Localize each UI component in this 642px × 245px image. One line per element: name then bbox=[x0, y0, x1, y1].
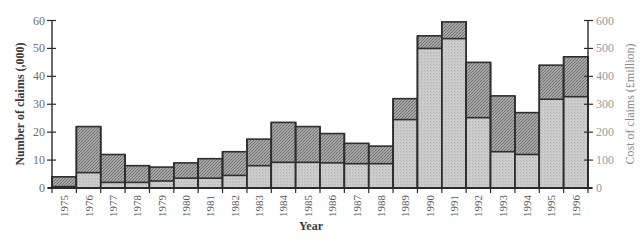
x-tick-label: 1987 bbox=[351, 195, 363, 218]
bar-group-1986 bbox=[320, 134, 344, 188]
cost-bar bbox=[272, 162, 295, 188]
bar-group-1979 bbox=[149, 167, 173, 188]
bar-group-1975 bbox=[52, 177, 76, 188]
bar-group-1987 bbox=[344, 143, 368, 188]
y-tick-label-right: 500 bbox=[596, 41, 614, 55]
cost-bar bbox=[540, 99, 563, 188]
bar-group-1982 bbox=[223, 152, 247, 188]
cost-bar bbox=[321, 163, 344, 188]
claims-chart: 1975197619771978197919801981198219831984… bbox=[0, 0, 642, 245]
bar-group-1991 bbox=[442, 22, 466, 188]
x-tick-label: 1977 bbox=[107, 195, 119, 218]
bar-group-1977 bbox=[101, 155, 125, 189]
bar-group-1989 bbox=[393, 99, 417, 188]
y-tick-label-right: 600 bbox=[596, 14, 614, 28]
cost-bar bbox=[491, 152, 514, 188]
bar-group-1981 bbox=[198, 159, 222, 188]
x-tick-label: 1982 bbox=[229, 195, 241, 217]
y-tick-label-left: 20 bbox=[33, 125, 45, 139]
x-tick-label: 1992 bbox=[472, 195, 484, 217]
x-tick-label: 1988 bbox=[375, 195, 387, 218]
cost-bar bbox=[296, 162, 319, 188]
x-tick-label: 1980 bbox=[180, 195, 192, 218]
y-tick-label-left: 0 bbox=[39, 181, 45, 195]
cost-bar bbox=[223, 175, 246, 188]
cost-bar bbox=[77, 173, 100, 188]
bar-group-1976 bbox=[76, 127, 100, 188]
y-tick-label-left: 30 bbox=[33, 97, 45, 111]
cost-bar bbox=[199, 178, 222, 188]
x-tick-label: 1976 bbox=[83, 195, 95, 218]
y-tick-label-left: 10 bbox=[33, 153, 45, 167]
x-tick-label: 1994 bbox=[521, 195, 533, 218]
x-tick-label: 1996 bbox=[570, 195, 582, 218]
x-tick-label: 1989 bbox=[399, 195, 411, 218]
x-tick-label: 1983 bbox=[253, 195, 265, 218]
x-tick-label: 1990 bbox=[424, 195, 436, 218]
bar-group-1990 bbox=[417, 36, 441, 188]
cost-bar bbox=[370, 164, 393, 188]
cost-bar bbox=[418, 48, 441, 188]
cost-bar bbox=[394, 120, 417, 188]
y-tick-label-left: 60 bbox=[33, 14, 45, 28]
y-tick-label-right: 300 bbox=[596, 97, 614, 111]
cost-bar bbox=[150, 181, 173, 188]
x-axis-title: Year bbox=[299, 219, 324, 233]
cost-bar bbox=[467, 118, 490, 188]
bar-group-1985 bbox=[296, 127, 320, 188]
x-tick-label: 1978 bbox=[131, 195, 143, 218]
cost-bar bbox=[248, 166, 271, 188]
y-tick-label-right: 200 bbox=[596, 125, 614, 139]
x-tick-label: 1986 bbox=[326, 195, 338, 218]
bars-group bbox=[52, 22, 588, 188]
x-tick-label: 1981 bbox=[204, 195, 216, 217]
cost-bar bbox=[175, 178, 198, 188]
cost-bar bbox=[516, 155, 539, 189]
cost-bar bbox=[345, 164, 368, 188]
x-tick-label: 1985 bbox=[302, 195, 314, 218]
y-tick-label-right: 0 bbox=[596, 181, 602, 195]
y-tick-label-left: 50 bbox=[33, 41, 45, 55]
bar-group-1978 bbox=[125, 166, 149, 188]
y-axis-title-right: Cost of claims (£million) bbox=[623, 44, 637, 165]
x-tick-label: 1991 bbox=[448, 195, 460, 217]
y-tick-label-right: 100 bbox=[596, 153, 614, 167]
y-tick-label-right: 400 bbox=[596, 69, 614, 83]
y-axis-title-left: Number of claims (,000) bbox=[13, 42, 27, 165]
y-tick-label-left: 40 bbox=[33, 69, 45, 83]
x-tick-label: 1995 bbox=[545, 195, 557, 218]
bar-group-1983 bbox=[247, 139, 271, 188]
bar-group-1995 bbox=[539, 65, 563, 188]
cost-bar bbox=[443, 39, 466, 188]
bar-group-1994 bbox=[515, 113, 539, 188]
bar-group-1980 bbox=[174, 163, 198, 188]
bar-group-1992 bbox=[466, 62, 490, 188]
bar-group-1993 bbox=[491, 96, 515, 188]
cost-bar bbox=[564, 97, 587, 188]
x-tick-label: 1979 bbox=[156, 195, 168, 218]
x-tick-label: 1984 bbox=[277, 195, 289, 218]
bar-group-1988 bbox=[369, 146, 393, 188]
x-tick-label: 1993 bbox=[497, 195, 509, 218]
x-tick-label: 1975 bbox=[58, 195, 70, 218]
bar-group-1984 bbox=[271, 122, 295, 188]
